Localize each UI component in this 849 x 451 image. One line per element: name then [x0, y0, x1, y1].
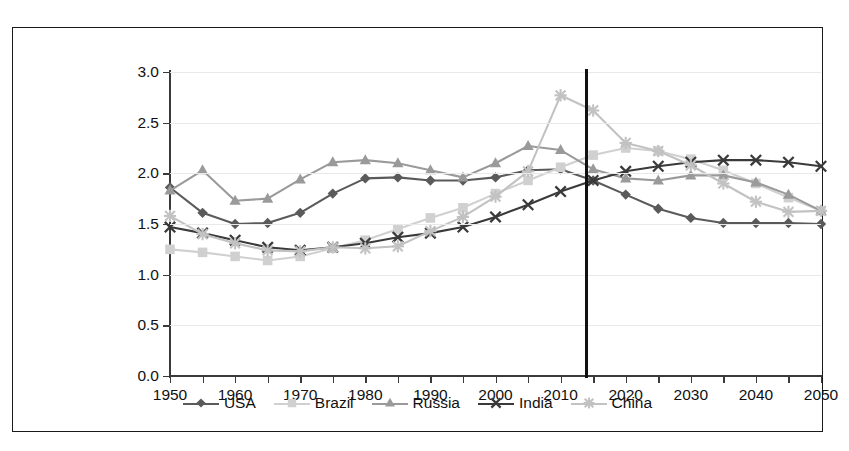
legend-label: USA — [224, 394, 256, 412]
y-axis-tick — [163, 275, 170, 276]
data-point-diamond — [295, 208, 305, 218]
y-axis-tick — [163, 325, 170, 326]
data-point-triangle — [262, 193, 273, 203]
y-axis-tick — [163, 123, 170, 124]
legend-swatch — [571, 395, 607, 412]
chart-frame: Ratio of working-age to non-working-age … — [12, 27, 823, 432]
data-point-star — [522, 165, 534, 177]
legend-marker-x-icon — [487, 394, 505, 412]
legend-item-brazil[interactable]: Brazil — [274, 394, 354, 412]
data-point-square — [230, 252, 240, 262]
data-point-star — [164, 210, 176, 222]
legend-item-russia[interactable]: Russia — [372, 394, 460, 412]
data-point-square — [588, 150, 598, 160]
gridline-horizontal — [170, 173, 821, 174]
y-axis-tick-label: 1.5 — [137, 215, 159, 233]
data-point-star — [229, 237, 241, 249]
legend-marker-square-icon — [283, 394, 301, 412]
data-point-diamond — [751, 218, 761, 228]
plot-area: 0.00.51.01.52.02.53.01950196019701980199… — [170, 72, 821, 376]
data-point-star — [620, 137, 632, 149]
data-point-diamond — [653, 204, 663, 214]
data-point-star — [717, 177, 729, 189]
gridline-horizontal — [170, 123, 821, 124]
legend-label: Russia — [413, 394, 460, 412]
legend-marker-diamond-icon — [192, 394, 210, 412]
data-point-square — [165, 245, 175, 255]
legend-swatch — [274, 395, 310, 412]
x-axis-tick — [821, 376, 822, 383]
y-axis-tick-label: 1.0 — [137, 266, 159, 284]
data-point-square — [198, 248, 208, 258]
gridline-horizontal — [170, 224, 821, 225]
data-point-star — [750, 196, 762, 208]
gridline-horizontal — [170, 325, 821, 326]
x-axis-tick — [528, 376, 529, 383]
data-point-star — [457, 211, 469, 223]
x-axis-tick — [658, 376, 659, 383]
data-point-diamond — [196, 398, 205, 407]
data-point-diamond — [425, 175, 435, 185]
legend-swatch — [183, 395, 219, 412]
x-axis-tick — [430, 376, 431, 383]
data-point-star — [685, 159, 697, 171]
x-axis-tick — [365, 376, 366, 383]
x-axis-tick — [496, 376, 497, 383]
y-axis-tick — [163, 376, 170, 377]
legend-label: India — [519, 394, 553, 412]
data-point-square — [263, 256, 273, 266]
legend-item-china[interactable]: China — [571, 394, 653, 412]
chart-legend: USABrazilRussiaIndiaChina — [12, 388, 823, 418]
data-point-triangle — [360, 154, 371, 164]
legend-marker-triangle-icon — [381, 394, 399, 412]
data-point-star — [815, 205, 827, 217]
data-point-diamond — [718, 218, 728, 228]
data-point-x — [490, 212, 500, 222]
y-axis-tick-label: 2.0 — [137, 164, 159, 182]
x-axis-tick — [235, 376, 236, 383]
data-point-star — [489, 191, 501, 203]
x-axis-tick — [756, 376, 757, 383]
data-point-x — [523, 200, 533, 210]
legend-label: China — [612, 394, 653, 412]
data-point-x — [491, 398, 500, 407]
data-point-star — [294, 245, 306, 257]
data-point-star — [782, 206, 794, 218]
gridline-horizontal — [170, 72, 821, 73]
present-year-line — [585, 69, 588, 378]
y-axis-tick-label: 0.0 — [137, 367, 159, 385]
x-axis-tick — [300, 376, 301, 383]
x-axis-tick — [268, 376, 269, 383]
x-axis-tick — [593, 376, 594, 383]
y-axis-tick — [163, 224, 170, 225]
legend-swatch — [478, 395, 514, 412]
data-point-diamond — [262, 218, 272, 228]
data-point-star — [424, 225, 436, 237]
x-axis-tick — [463, 376, 464, 383]
x-axis-tick — [561, 376, 562, 383]
data-point-square — [288, 399, 296, 407]
data-point-star — [392, 240, 404, 252]
data-point-x — [555, 186, 565, 196]
data-point-triangle — [588, 163, 599, 173]
data-point-star — [652, 145, 664, 157]
legend-item-usa[interactable]: USA — [183, 394, 256, 412]
data-point-diamond — [621, 189, 631, 199]
y-axis-tick — [163, 173, 170, 174]
x-axis-tick — [788, 376, 789, 383]
x-axis-tick — [691, 376, 692, 383]
data-point-star — [583, 398, 594, 409]
data-point-star — [587, 104, 599, 116]
data-point-star — [196, 228, 208, 240]
data-point-triangle — [522, 140, 533, 150]
data-point-diamond — [783, 218, 793, 228]
legend-label: Brazil — [315, 394, 354, 412]
data-point-diamond — [686, 213, 696, 223]
data-point-star — [359, 242, 371, 254]
gridline-horizontal — [170, 275, 821, 276]
legend-marker-star-icon — [580, 394, 598, 412]
data-point-diamond — [328, 188, 338, 198]
x-axis-tick — [170, 376, 171, 383]
legend-item-india[interactable]: India — [478, 394, 553, 412]
y-axis-tick-label: 3.0 — [137, 63, 159, 81]
